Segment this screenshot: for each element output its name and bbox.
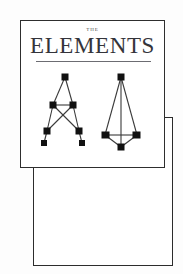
figure-row (21, 71, 164, 161)
page-title: ELEMENTS (21, 33, 164, 58)
figure-a-frame-truss (39, 71, 89, 151)
cover-card: THE ELEMENTS (20, 20, 165, 168)
a-frame-truss-icon (39, 71, 89, 151)
title-underline-rule (36, 61, 151, 62)
tower-truss-icon (97, 71, 147, 155)
title-block: THE ELEMENTS (21, 26, 164, 58)
book-cover-scene: THE ELEMENTS (0, 0, 183, 274)
figure-tower-truss (97, 71, 147, 155)
title-eyebrow: THE (21, 26, 164, 33)
